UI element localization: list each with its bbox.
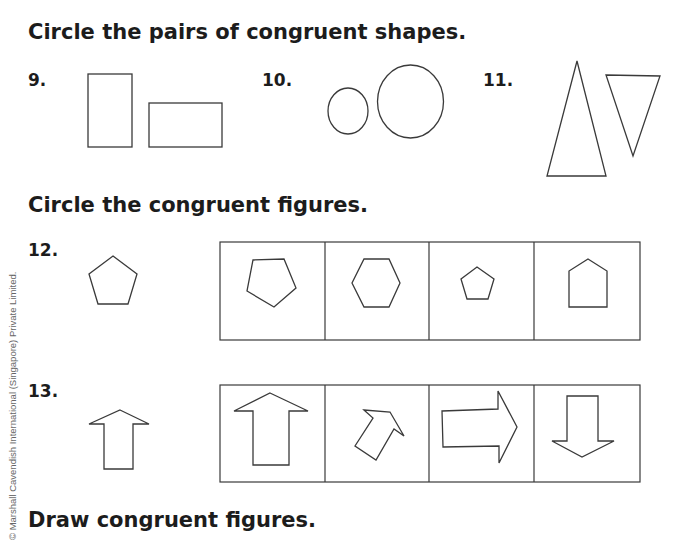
rotated-arrow-shape[interactable] <box>355 410 404 460</box>
worksheet-shapes <box>0 0 692 540</box>
small-pentagon-shape[interactable] <box>461 267 494 299</box>
option-13d[interactable] <box>552 396 614 457</box>
tall-rectangle-shape[interactable] <box>88 74 132 147</box>
house-pentagon-shape[interactable] <box>569 259 607 307</box>
option-12a[interactable] <box>247 259 296 307</box>
tall-triangle-shape[interactable] <box>547 61 606 176</box>
down-arrow-shape[interactable] <box>552 396 614 457</box>
hexagon-shape[interactable] <box>352 259 400 307</box>
wide-rectangle-shape[interactable] <box>149 103 222 147</box>
options-box-12 <box>220 242 640 340</box>
option-12d[interactable] <box>569 259 607 307</box>
option-13b[interactable] <box>355 410 404 460</box>
right-arrow-shape[interactable] <box>442 391 517 463</box>
inverted-triangle-shape[interactable] <box>606 75 660 156</box>
reference-pentagon-shape <box>89 256 137 304</box>
large-circle-shape[interactable] <box>378 65 444 138</box>
rotated-pentagon-shape[interactable] <box>247 259 296 307</box>
option-13c[interactable] <box>442 391 517 463</box>
option-12c[interactable] <box>461 267 494 299</box>
option-13a[interactable] <box>234 393 308 465</box>
small-ellipse-shape[interactable] <box>328 88 368 134</box>
reference-up-arrow-shape <box>89 410 149 469</box>
large-up-arrow-shape[interactable] <box>234 393 308 465</box>
option-12b[interactable] <box>352 259 400 307</box>
